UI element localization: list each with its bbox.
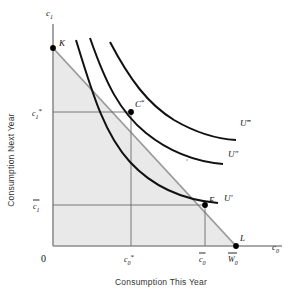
x-tick-label-c0-star: c0* [124,253,135,266]
indifference-curve-u-triple-prime [110,42,236,140]
curve-label-u-prime: U′ [224,193,234,203]
point-e-dot [202,202,208,208]
point-l-label: L [239,233,245,243]
point-k-label: K [58,38,66,48]
x-axis-title: Consumption This Year [115,277,207,287]
x-tick-label-w0-bar: W0 [228,253,238,266]
point-l-dot [233,243,239,249]
y-axis-title: Consumption Next Year [6,113,16,207]
curve-label-u-triple-prime: U‴ [240,118,252,128]
point-k-dot [50,45,56,51]
y-tick-label-c1-bar: c1 [33,200,40,213]
curve-label-u-double-prime: U″ [228,149,239,159]
origin-label: 0 [41,253,46,264]
svg-text:W0: W0 [228,255,238,266]
svg-text:c0: c0 [199,255,206,266]
point-c-star-dot [128,109,134,115]
svg-text:c1: c1 [33,202,40,213]
stray-mark [186,159,188,161]
y-axis-symbol: c1 [46,8,53,20]
indifference-curve-figure: c1 c0 0 K C* E L c1* c1 c0* c0 W0 [0,0,301,294]
point-e-label: E [208,195,215,205]
y-tick-label-c1-star: c1* [32,107,43,120]
x-axis-symbol: c0 [272,242,279,254]
point-c-star-label: C* [135,98,145,109]
x-tick-label-c0-bar: c0 [199,253,206,266]
